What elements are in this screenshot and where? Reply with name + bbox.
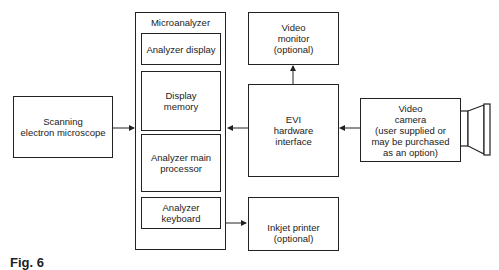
display-memory-box: Display memory	[141, 71, 221, 131]
evi-hardware-interface-box: EVI hardware interface	[248, 84, 339, 177]
video-monitor-box: Video monitor (optional)	[248, 12, 339, 65]
scanning-electron-microscope-box: Scanning electron microscope	[13, 96, 113, 158]
analyzer-display-box: Analyzer display	[141, 33, 221, 65]
figure-label: Fig. 6	[10, 255, 44, 270]
video-camera-box: Video camera (user supplied or may be pu…	[360, 98, 461, 162]
inkjet-printer-box: Inkjet printer (optional)	[248, 197, 339, 251]
camera-lens-icon	[460, 104, 490, 155]
microanalyzer-title: Microanalyzer	[136, 17, 225, 28]
analyzer-main-processor-box: Analyzer main processor	[141, 134, 221, 192]
analyzer-keyboard-box: Analyzer keyboard	[141, 197, 221, 229]
